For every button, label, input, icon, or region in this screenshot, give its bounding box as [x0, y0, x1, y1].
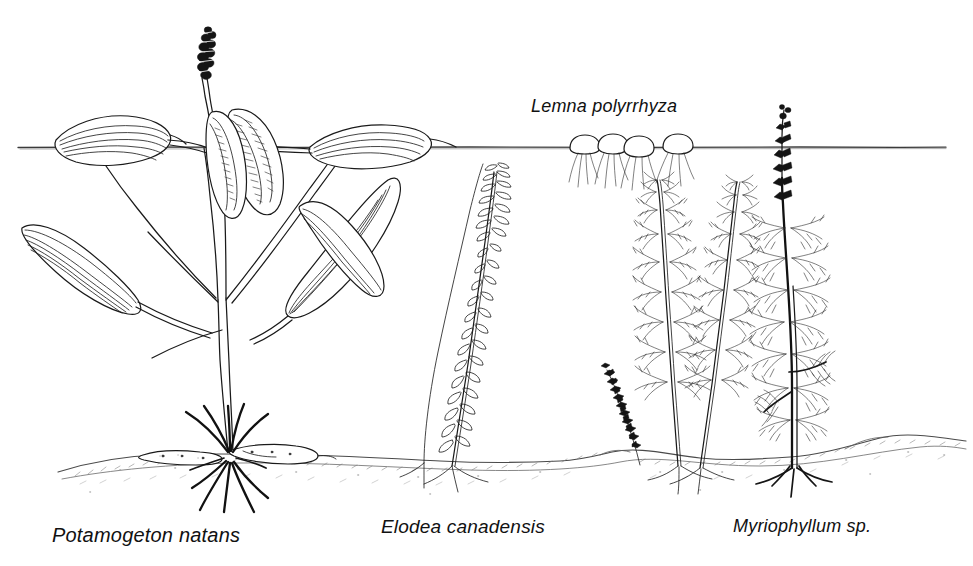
myriophyllum-b-whorls: [685, 175, 762, 397]
label-elodea-canadensis: Elodea canadensis: [381, 516, 545, 538]
lemna-roots-1: [569, 153, 598, 187]
plant-lemna-polyrrhyza: [569, 134, 694, 190]
elodea-bare-stem: [424, 164, 483, 463]
plant-myriophyllum-stem-a: [633, 172, 712, 494]
lemna-roots-2: [595, 153, 628, 188]
potamogeton-inflorescence: [197, 27, 216, 80]
lemna-frond-3: [621, 136, 656, 190]
label-lemna-polyrrhyza: Lemna polyrrhyza: [531, 96, 677, 117]
label-potamogeton-natans: Potamogeton natans: [52, 524, 240, 547]
plant-potamogeton-natans: [22, 27, 456, 512]
plant-myriophyllum-stem-b: [670, 175, 762, 494]
botanical-line-art: [0, 0, 973, 566]
lemna-roots-3: [621, 155, 656, 190]
plant-myriophyllum-stem-c: [748, 105, 835, 497]
aquatic-plants-figure: Lemna polyrrhyza Potamogeton natans Elod…: [0, 0, 973, 566]
elodea-leaves: [439, 163, 511, 452]
myriophyllum-c-roots: [756, 466, 832, 497]
lemna-frond-4: [656, 134, 694, 186]
lemna-frond-2: [595, 134, 628, 188]
label-myriophyllum-sp: Myriophyllum sp.: [733, 516, 871, 537]
lemna-roots-4: [656, 153, 694, 186]
potamogeton-submerged-leaf-lower-left: [22, 225, 141, 314]
lemna-frond-1: [569, 135, 600, 187]
myriophyllum-b-roots: [670, 468, 734, 494]
potamogeton-floating-leaf-left: [55, 116, 186, 166]
elodea-main-stem: [452, 172, 494, 466]
elodea-roots: [400, 463, 488, 492]
plant-elodea-canadensis: [400, 163, 511, 492]
